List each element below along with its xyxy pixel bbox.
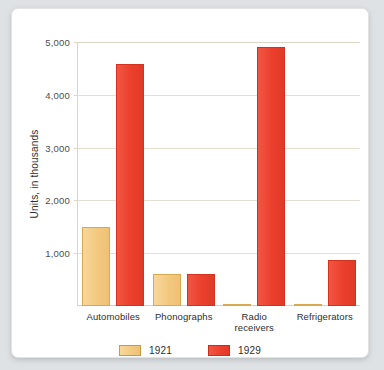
- plot-area: 5,0004,0003,0002,0001,000: [78, 42, 360, 306]
- legend-item-1921[interactable]: 1921: [119, 345, 172, 356]
- y-axis-line: [77, 42, 78, 306]
- y-tick-label-3000: 3,000: [45, 142, 70, 153]
- y-tick-label-4000: 4,000: [45, 89, 70, 100]
- legend-item-1929[interactable]: 1929: [208, 345, 261, 356]
- bar-1929-radio-receivers[interactable]: [257, 47, 285, 306]
- legend-swatch-1921-icon: [119, 345, 141, 356]
- y-tick-label-1000: 1,000: [45, 248, 70, 259]
- bar-1929-automobiles[interactable]: [116, 64, 144, 306]
- y-tick-mark-3000: [74, 148, 78, 149]
- y-tick-mark-2000: [74, 200, 78, 201]
- y-tick-mark-1000: [74, 253, 78, 254]
- x-axis-label-refrigerators: Refrigerators: [290, 311, 361, 322]
- y-tick-label-5000: 5,000: [45, 37, 70, 48]
- gridline-5000: [78, 42, 360, 43]
- y-tick-mark-4000: [74, 95, 78, 96]
- y-axis-title: Units, in thousands: [29, 130, 40, 219]
- bar-1921-refrigerators[interactable]: [294, 304, 322, 307]
- bar-1921-automobiles[interactable]: [82, 227, 110, 306]
- chart-legend: 1921 1929: [12, 345, 368, 356]
- bar-1929-refrigerators[interactable]: [328, 260, 356, 306]
- y-tick-label-2000: 2,000: [45, 195, 70, 206]
- x-axis-label-phonographs: Phonographs: [149, 311, 220, 322]
- chart-card: Units, in thousands 5,0004,0003,0002,000…: [11, 8, 369, 358]
- y-tick-mark-5000: [74, 42, 78, 43]
- legend-label-1929: 1929: [238, 345, 261, 356]
- bar-1929-phonographs[interactable]: [187, 274, 215, 306]
- x-axis-label-automobiles: Automobiles: [78, 311, 149, 322]
- x-axis-label-radio-receivers: Radio receivers: [219, 311, 290, 333]
- bar-1921-radio-receivers[interactable]: [223, 304, 251, 307]
- legend-swatch-1929-icon: [208, 345, 230, 356]
- legend-label-1921: 1921: [149, 345, 172, 356]
- bar-1921-phonographs[interactable]: [153, 274, 181, 306]
